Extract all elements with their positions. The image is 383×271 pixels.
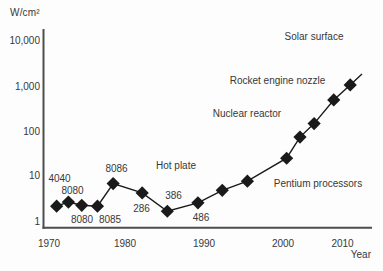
data-point-diamond xyxy=(75,199,88,212)
chip-label: 8085 xyxy=(99,214,122,225)
x-tick-label: 1990 xyxy=(193,238,216,249)
y-tick-label: 1,000 xyxy=(15,81,40,92)
annotation-label: Hot plate xyxy=(156,160,196,171)
data-point-diamond xyxy=(241,175,254,188)
x-tick-label: 2010 xyxy=(331,238,354,249)
y-tick-label: 100 xyxy=(23,126,40,137)
data-series-line xyxy=(57,74,362,211)
data-point-diamond xyxy=(216,184,229,197)
data-point-diamond xyxy=(91,200,104,213)
data-point-diamond xyxy=(62,196,75,209)
annotation-label: Nuclear reactor xyxy=(213,108,282,119)
power-density-chart: W/cm² 1970198019902000201010,0001,000100… xyxy=(0,0,383,271)
x-tick-label: 1980 xyxy=(114,238,137,249)
data-point-diamond xyxy=(136,186,149,199)
x-axis-label: Year xyxy=(351,249,371,260)
annotation-label: Rocket engine nozzle xyxy=(230,75,326,86)
chart-canvas: 1970198019902000201010,0001,000100101404… xyxy=(0,0,383,271)
x-tick-label: 2000 xyxy=(272,238,295,249)
y-tick-label: 10,000 xyxy=(9,35,40,46)
chip-label: 8086 xyxy=(105,163,128,174)
chip-label: 8080 xyxy=(61,185,84,196)
chip-label: 486 xyxy=(193,212,210,223)
data-point-diamond xyxy=(161,205,174,218)
data-point-diamond xyxy=(191,196,204,209)
data-point-diamond xyxy=(50,200,63,213)
y-tick-label: 10 xyxy=(29,170,41,181)
x-tick-label: 1970 xyxy=(38,238,61,249)
chip-label: 8080 xyxy=(71,214,94,225)
annotation-label: Solar surface xyxy=(285,31,344,42)
chip-label: 4040 xyxy=(48,173,71,184)
annotation-label: Pentium processors xyxy=(274,178,362,189)
y-tick-label: 1 xyxy=(34,216,40,227)
data-point-diamond xyxy=(107,177,120,190)
chip-label: 386 xyxy=(165,190,182,201)
data-point-diamond xyxy=(280,152,293,165)
chip-label: 286 xyxy=(133,203,150,214)
